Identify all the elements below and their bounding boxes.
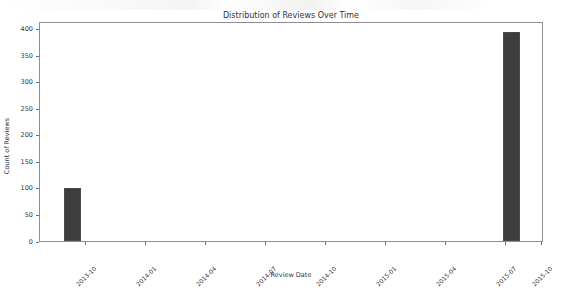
x-axis-tick-mark	[145, 242, 146, 245]
x-axis-tick-label: 2014-07	[272, 247, 295, 270]
x-axis-tick-label: 2014-04	[212, 247, 235, 270]
y-axis-tick-label: 100	[21, 185, 36, 192]
scan-noise-artifact	[0, 0, 562, 10]
y-axis-tick-group: 050100150200250300350400	[0, 22, 39, 242]
plot-area	[39, 22, 543, 242]
y-axis-tick-label: 400	[21, 26, 36, 33]
x-axis-label: Review Date	[39, 271, 543, 280]
y-axis-tick-label: 250	[21, 106, 36, 113]
x-axis-tick-label: 2015-04	[452, 247, 475, 270]
x-axis-tick-label: 2013-10	[92, 247, 115, 270]
x-axis-tick-label: 2014-01	[152, 247, 175, 270]
x-axis-tick-mark	[385, 242, 386, 245]
x-axis-tick-mark	[85, 242, 86, 245]
y-axis-tick-label: 0	[29, 239, 36, 246]
y-axis-tick-label: 300	[21, 79, 36, 86]
x-axis-tick-mark	[325, 242, 326, 245]
x-axis-tick-label: 2015-07	[512, 247, 535, 270]
x-axis-tick-mark	[265, 242, 266, 245]
bar	[64, 188, 81, 241]
y-axis-tick-label: 350	[21, 53, 36, 60]
x-axis-tick-mark	[205, 242, 206, 245]
x-axis-tick-mark	[445, 242, 446, 245]
y-axis-tick-label: 200	[21, 132, 36, 139]
bar	[503, 32, 520, 241]
y-axis-tick-label: 150	[21, 159, 36, 166]
bar-series	[40, 23, 542, 241]
x-axis-tick-label: 2015-01	[392, 247, 415, 270]
chart-title: Distribution of Reviews Over Time	[39, 11, 543, 21]
x-axis-tick-mark	[541, 242, 542, 245]
x-axis-tick-label: 2015-10	[548, 247, 562, 270]
x-axis-tick-mark	[505, 242, 506, 245]
chart-figure: Distribution of Reviews Over Time Count …	[0, 0, 562, 298]
x-axis-tick-label: 2014-10	[332, 247, 355, 270]
y-axis-tick-label: 50	[25, 212, 36, 219]
